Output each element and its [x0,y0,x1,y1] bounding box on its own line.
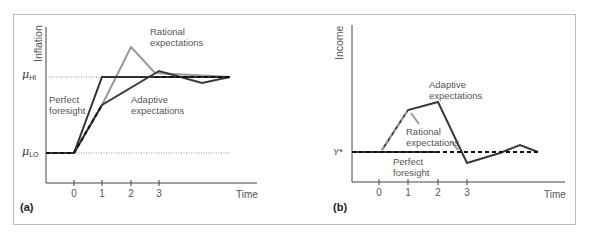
b-tick-2: 2 [435,187,441,198]
label-line: expectations [429,90,482,101]
b-tick-1: 1 [405,187,411,198]
label-line: Adaptive [131,94,184,105]
b-ylabel: Income [333,26,345,60]
a-rational-label: Rationalexpectations [150,26,203,48]
a-xlabel: Time [236,189,258,200]
b-tick-0: 0 [376,187,382,198]
a-panel-label: (a) [20,201,33,213]
panel-b-axes [352,25,565,185]
label-line: expectations [150,37,203,48]
a-adaptive-label: Adaptiveexpectations [131,94,184,116]
b-tick-3: 3 [464,187,470,198]
b-adaptive-label: Adaptiveexpectations [429,79,482,101]
chart-canvas [0,0,589,236]
a-mu-hi: μHI [22,68,36,81]
label-line: foresight [393,167,429,178]
a-perfect-label: Perfectforesight [49,94,85,116]
a-tick-0: 0 [71,188,77,199]
a-mu-lo: μLO [22,145,39,158]
b-panel-label: (b) [333,201,347,213]
b-xlabel: Time [544,189,566,200]
b-ystar: Y* [333,147,343,158]
a-tick-3: 3 [156,188,162,199]
label-line: expectations [131,105,184,116]
a-ylabel: Inflation [32,25,44,62]
b-rational-pointer [411,113,419,124]
label-line: Perfect [49,94,85,105]
label-line: Rational [150,26,203,37]
label-line: Perfect [393,156,429,167]
label-line: Adaptive [429,79,482,90]
a-tick-2: 2 [128,188,134,199]
b-rational-label: Rationalexpectations [406,126,459,148]
label-line: expectations [406,137,459,148]
b-perfect-label: Perfectforesight [393,156,429,178]
hi-subscript: HI [29,74,36,81]
lo-subscript: LO [29,151,38,158]
label-line: Rational [406,126,459,137]
a-tick-1: 1 [99,188,105,199]
label-line: foresight [49,105,85,116]
